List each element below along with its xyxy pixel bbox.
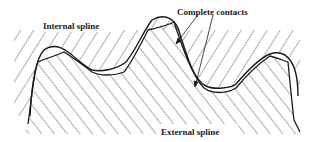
internal-spline-label: Internal spline [43,22,99,31]
complete-contacts-label: Complete contacts [177,8,248,17]
external-spline-label: External spline [161,128,219,137]
